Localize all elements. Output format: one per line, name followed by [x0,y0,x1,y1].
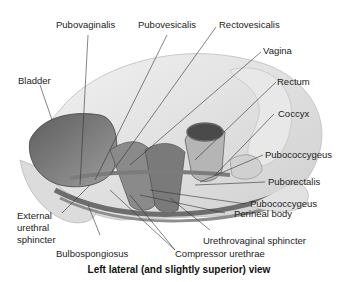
label-rectovesicalis: Rectovesicalis [219,19,280,30]
label-compressor-urethrae: Compressor urethrae [175,248,265,259]
label-pubococcygeus-upper: Pubococcygeus [265,149,332,160]
label-pubovesicalis: Pubovesicalis [138,19,196,30]
label-external-urethral-sphincter-line3: sphincter [17,234,56,245]
label-rectum: Rectum [277,76,310,87]
pelvic-floor-diagram: Pubovaginalis Pubovesicalis Rectovesical… [0,0,358,282]
label-external-urethral-sphincter-line1: External [17,210,52,221]
label-bulbospongiosus: Bulbospongiosus [56,248,128,259]
label-coccyx: Coccyx [278,108,309,119]
label-urethrovaginal-sphincter: Urethrovaginal sphincter [203,235,306,246]
label-bladder: Bladder [18,75,51,86]
label-vagina: Vagina [263,45,292,56]
label-perineal-body: Perineal body [234,208,292,219]
label-puborectalis: Puborectalis [268,176,320,187]
figure-caption: Left lateral (and slightly superior) vie… [0,264,358,275]
label-pubovaginalis: Pubovaginalis [56,19,115,30]
label-external-urethral-sphincter-line2: urethral [17,222,49,233]
